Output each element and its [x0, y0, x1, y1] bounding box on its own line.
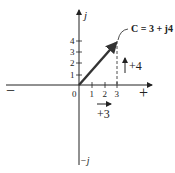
y-tick-label-3: 3 [70, 47, 75, 57]
y-tick-label-2: 2 [70, 58, 75, 68]
horizontal-component-label: +3 [97, 107, 110, 121]
phasor-label: C = 3 + j4 [131, 23, 173, 34]
y-tick-label-4: 4 [70, 36, 75, 46]
vertical-component-label: +4 [129, 59, 142, 73]
label-leader [118, 29, 128, 40]
x-tick-label-3: 3 [115, 89, 120, 99]
complex-plane-diagram: j −j − + 0 1 2 3 1 2 3 4 C = 3 + j4 +4 +… [0, 0, 175, 173]
real-negative-label: − [6, 82, 15, 99]
x-tick-label-2: 2 [103, 89, 108, 99]
real-positive-label: + [139, 84, 148, 101]
phasor-arrow [79, 43, 116, 85]
y-tick-label-1: 1 [70, 70, 75, 80]
x-tick-label-1: 1 [90, 89, 95, 99]
imag-positive-label: j [82, 9, 87, 21]
imag-negative-label: −j [80, 155, 90, 166]
origin-label: 0 [72, 89, 77, 99]
